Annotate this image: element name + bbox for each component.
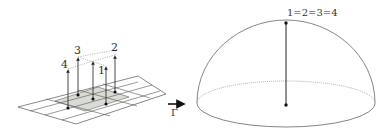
map-arrow: Γ	[168, 104, 181, 118]
identified-points-label: 1=2=3=4	[287, 7, 338, 18]
label-3: 3	[74, 44, 81, 57]
left-panel: 4 3 1 2	[18, 41, 166, 124]
top-dot	[284, 21, 287, 24]
base-dot	[284, 103, 287, 106]
right-panel: 1=2=3=4	[197, 7, 375, 127]
label-1: 1	[98, 64, 105, 77]
label-2: 2	[111, 41, 118, 54]
label-4: 4	[61, 58, 68, 71]
diagram-canvas: 4 3 1 2 Γ 1=2=3=4	[0, 0, 387, 135]
gamma-label: Γ	[171, 107, 178, 118]
